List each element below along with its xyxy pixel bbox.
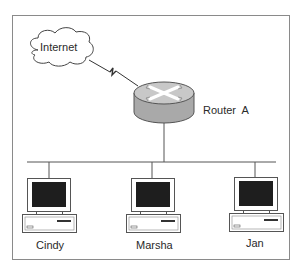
computer-label-jan: Jan — [246, 237, 264, 249]
desktop-computer-icon — [230, 178, 284, 232]
computer-label-marsha: Marsha — [136, 239, 174, 251]
desktop-computer-icon — [23, 179, 77, 233]
router-icon — [134, 82, 194, 123]
desktop-computer-icon — [127, 179, 181, 233]
router-label: Router A — [203, 104, 250, 116]
computer-label-cindy: Cindy — [36, 239, 65, 251]
network-diagram: Internet Router A — [0, 0, 301, 268]
internet-label: Internet — [40, 41, 77, 53]
